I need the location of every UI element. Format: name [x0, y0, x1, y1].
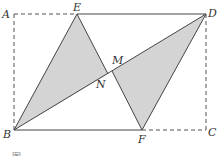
label-f: F [137, 133, 146, 146]
label-d: D [207, 7, 217, 20]
geometry-diagram: A E D M N B F C 图 … [0, 0, 220, 156]
figure-caption: 图 … [12, 152, 33, 156]
label-e: E [72, 1, 81, 14]
shaded-triangle-ebn [14, 14, 108, 130]
label-c: C [208, 126, 217, 139]
diagonal-bd [14, 14, 206, 130]
label-m: M [111, 54, 124, 67]
label-b: B [2, 128, 11, 141]
label-a: A [1, 8, 10, 21]
shaded-triangle-dmf [112, 14, 206, 130]
label-n: N [95, 78, 106, 91]
